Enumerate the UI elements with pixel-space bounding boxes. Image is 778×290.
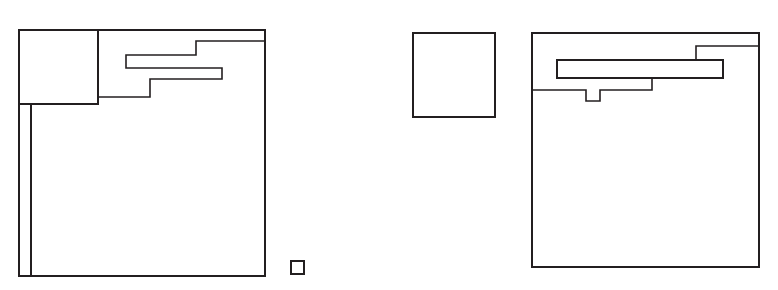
- rectangle-partition-figure: [0, 0, 778, 290]
- right-isolated-square: [413, 33, 495, 117]
- right-stepped-comb-polygon: [532, 33, 759, 101]
- right-group: [413, 33, 759, 267]
- left-tiny-square: [291, 261, 304, 274]
- left-stepped-comb-polygon: [98, 30, 265, 97]
- right-middle-bar: [557, 60, 723, 78]
- left-inner-square: [19, 30, 98, 104]
- left-outer-rectangle: [19, 30, 265, 276]
- right-outer-rectangle: [532, 33, 759, 267]
- figure-canvas: [0, 0, 778, 290]
- left-narrow-vertical-strip: [19, 104, 31, 276]
- left-group: [19, 30, 304, 276]
